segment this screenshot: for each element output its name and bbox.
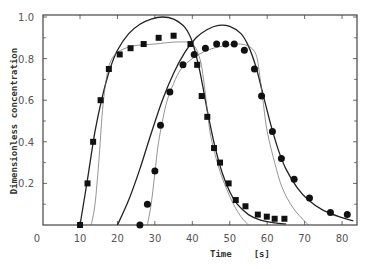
square-marker [204,114,210,120]
x-tick-label: 80 [336,233,349,244]
circle-marker [231,41,238,48]
circle-marker [151,167,158,174]
circle-marker [291,176,298,183]
y-tick-label: 0.2 [18,178,34,189]
circle-marker [306,194,313,201]
x-tick-label: 10 [74,233,87,244]
square-marker [242,203,248,209]
chart-canvas: 010203040506070800.20.40.60.81.0 Time[s]… [0,0,370,269]
circle-marker [136,222,143,229]
circle-marker [191,51,198,58]
square-marker [226,180,232,186]
circle-marker [157,122,164,129]
circle-marker [179,61,186,68]
plot-frame [43,15,357,225]
square-marker [187,41,193,47]
square-marker [90,139,96,145]
plot-border [43,15,357,225]
x-tick-label: 30 [149,233,162,244]
square-marker [106,66,112,72]
x-axis-title-text: Time [210,249,232,259]
circle-marker [251,66,258,73]
square-marker [171,33,177,39]
data-markers [77,33,351,229]
circle-marker [278,155,285,162]
circle-marker [213,41,220,48]
square-marker [128,45,134,51]
x-tick-label: 60 [261,233,274,244]
x-tick-label: 70 [298,233,311,244]
square-marker [211,145,217,151]
square-marker [255,212,261,218]
y-tick-label: 0.8 [18,54,34,65]
y-axis-title: Dimensionless concentration [9,48,19,194]
square-marker [117,51,123,57]
model-curve [147,44,308,225]
square-marker [272,216,278,222]
square-marker [141,41,147,47]
x-tick-label: 20 [111,233,124,244]
x-axis-title: Time[s] [210,249,270,259]
model-curve [80,17,286,225]
y-tick-label: 0.4 [18,137,34,148]
square-marker [194,62,200,68]
model-curve [117,25,353,225]
square-marker [156,35,162,41]
circle-marker [344,211,351,218]
x-axis-unit: [s] [254,249,270,259]
circle-marker [202,45,209,52]
square-marker [77,222,83,228]
square-marker [233,197,239,203]
model-curve [91,42,248,225]
x-tick-label: 50 [223,233,236,244]
model-curves [80,17,353,225]
square-marker [199,93,205,99]
circle-marker [222,41,229,48]
square-marker [98,97,104,103]
circle-marker [166,88,173,95]
square-marker [264,214,270,220]
circle-marker [327,209,334,216]
y-tick-label: 1.0 [18,12,34,23]
circle-marker [241,47,248,54]
square-marker [217,160,223,166]
circle-marker [269,128,276,135]
x-tick-label: 40 [186,233,199,244]
square-marker [281,216,287,222]
x-tick-label: 0 [34,233,40,244]
square-marker [85,180,91,186]
circle-marker [258,93,265,100]
circle-marker [144,201,151,208]
y-tick-label: 0.6 [18,95,34,106]
